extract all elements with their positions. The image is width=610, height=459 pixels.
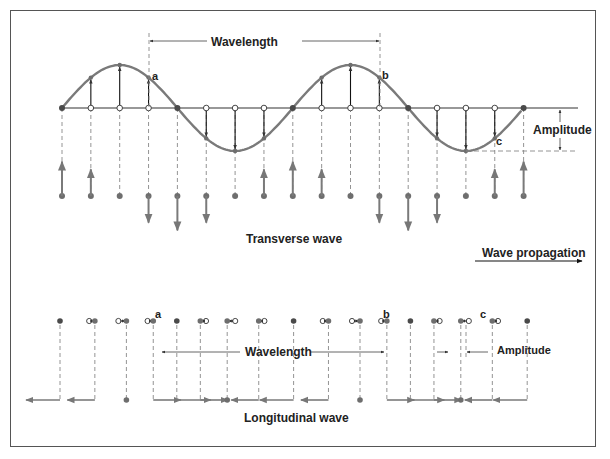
rest-position-point [434,105,440,111]
wave-diagram: Wavelength Amplitude a b c Transverse wa… [0,0,610,459]
particle-point [490,318,496,324]
rest-position-point [319,105,325,111]
longitudinal-wave-diagram [26,318,530,403]
particle-point [224,318,230,324]
transverse-wave-diagram [59,33,578,230]
node-point [174,105,180,111]
transverse-caption: Transverse wave [246,232,342,246]
rest-position-point [348,105,354,111]
longitudinal-caption: Longitudinal wave [244,411,349,425]
velocity-point [232,193,238,199]
particle-point [291,318,297,324]
rest-position-point [88,105,94,111]
rest-position-point [492,105,498,111]
longitudinal-wavelength-label: Wavelength [245,345,312,359]
node-point [59,105,65,111]
rest-position-point [203,105,209,111]
rest-position-point [377,105,383,111]
rest-position-point [463,105,469,111]
particle-point [92,318,98,324]
rest-position-point [261,105,267,111]
rest-position-point [232,105,238,111]
transverse-wavelength-label: Wavelength [211,35,278,49]
particle-point [198,318,204,324]
particle-point [256,318,262,324]
particle-point [326,318,332,324]
particle-point [124,318,130,324]
velocity-point [463,193,469,199]
particle-point [57,318,63,324]
rest-position-point [117,105,123,111]
velocity-point [117,193,123,199]
particle-point [357,318,363,324]
node-point [521,105,527,111]
particle-point [408,318,414,324]
particle-point [174,318,180,324]
point-label-b: b [382,69,389,81]
node-point [290,105,296,111]
node-point [405,105,411,111]
wave-propagation-label: Wave propagation [482,246,586,260]
particle-point [431,318,437,324]
long-point-label-b: b [383,308,390,320]
velocity-point [348,193,354,199]
longitudinal-amplitude-label: Amplitude [497,344,551,356]
point-label-c: c [496,135,502,147]
long-point-label-c: c [480,308,486,320]
particle-point [458,318,464,324]
transverse-amplitude-label: Amplitude [533,123,592,137]
point-label-a: a [152,70,159,82]
particle-point [524,318,530,324]
long-point-label-a: a [155,308,162,320]
